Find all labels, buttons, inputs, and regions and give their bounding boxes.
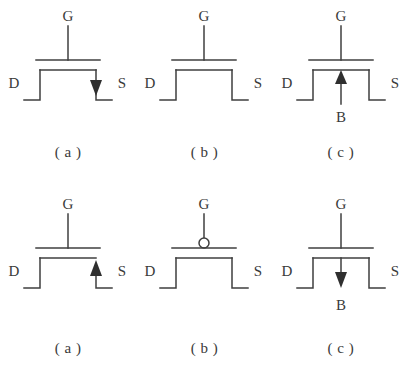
source-arrow-down-icon [90, 80, 102, 96]
mosfet-diagram-bottom-a: G D S [0, 196, 136, 324]
source-terminal-label: S [254, 263, 262, 279]
symbol-row-top: G D S ( a ) G D S ( b ) [0, 8, 409, 183]
mosfet-diagram-top-a: G D S [0, 8, 136, 136]
drain-terminal-label: D [9, 263, 20, 279]
symbol-caption-bottom-c: ( c ) [327, 340, 354, 357]
symbol-caption-top-a: ( a ) [55, 144, 82, 161]
gate-terminal-label: G [63, 8, 74, 24]
symbol-caption-bottom-b: ( b ) [191, 340, 219, 357]
mosfet-symbol-top-c: G D S B ( c ) [273, 8, 409, 178]
source-channel-line [369, 70, 385, 100]
source-terminal-label: S [391, 75, 399, 91]
mosfet-symbol-top-b: G D S ( b ) [136, 8, 272, 178]
source-terminal-label: S [254, 75, 262, 91]
drain-terminal-label: D [9, 75, 20, 91]
gate-terminal-label: G [199, 8, 210, 24]
drain-terminal-label: D [145, 75, 156, 91]
drain-channel-line [160, 258, 176, 288]
drain-terminal-label: D [281, 263, 292, 279]
drain-channel-line [24, 70, 40, 100]
bulk-arrow-up-icon [335, 70, 347, 84]
bulk-terminal-label: B [336, 297, 346, 313]
drain-channel-line [160, 70, 176, 100]
symbol-caption-top-b: ( b ) [191, 144, 219, 161]
mosfet-diagram-top-b: G D S [136, 8, 272, 136]
mosfet-symbols-figure: G D S ( a ) G D S ( b ) [0, 0, 409, 367]
source-terminal-label: S [118, 263, 126, 279]
mosfet-symbol-top-a: G D S ( a ) [0, 8, 136, 178]
symbol-caption-top-c: ( c ) [327, 144, 354, 161]
mosfet-symbol-bottom-a: G D S ( a ) [0, 196, 136, 366]
mosfet-diagram-bottom-b: G D S [136, 196, 272, 324]
bulk-arrow-down-icon [335, 272, 347, 288]
source-arrow-up-icon [90, 260, 102, 276]
drain-terminal-label: D [145, 263, 156, 279]
symbol-row-bottom: G D S ( a ) G D S ( b ) [0, 196, 409, 367]
source-channel-line [232, 70, 248, 100]
gate-terminal-label: G [335, 8, 346, 24]
drain-channel-line [297, 70, 313, 100]
gate-inversion-bubble-icon [199, 238, 209, 248]
source-channel-line [369, 258, 385, 288]
source-terminal-label: S [118, 75, 126, 91]
source-channel-line [96, 274, 112, 288]
mosfet-diagram-top-c: G D S B [273, 8, 409, 136]
gate-terminal-label: G [199, 196, 210, 212]
bulk-terminal-label: B [336, 109, 346, 125]
gate-terminal-label: G [335, 196, 346, 212]
symbol-caption-bottom-a: ( a ) [55, 340, 82, 357]
mosfet-diagram-bottom-c: G D S B [273, 196, 409, 324]
drain-channel-line [297, 258, 313, 288]
source-terminal-label: S [391, 263, 399, 279]
drain-channel-line [24, 258, 40, 288]
mosfet-symbol-bottom-c: G D S B ( c ) [273, 196, 409, 366]
mosfet-symbol-bottom-b: G D S ( b ) [136, 196, 272, 366]
drain-terminal-label: D [281, 75, 292, 91]
gate-terminal-label: G [63, 196, 74, 212]
source-channel-line [232, 258, 248, 288]
